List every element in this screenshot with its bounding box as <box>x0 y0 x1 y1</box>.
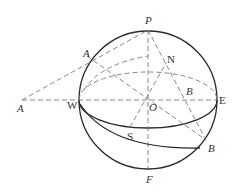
label-W: W <box>67 99 78 111</box>
label-P: P <box>144 14 152 26</box>
line-P-to-B-lower <box>148 30 206 140</box>
label-A-outside: A <box>16 102 24 114</box>
line-A-outside-to-P <box>22 30 148 100</box>
label-N: N <box>167 53 175 65</box>
label-A-sphere: A <box>82 47 90 59</box>
label-F: F <box>145 173 153 185</box>
label-E: E <box>219 94 226 106</box>
label-S: S <box>127 130 133 142</box>
lower-front-arc <box>80 104 200 148</box>
label-B-lower: B <box>208 142 215 154</box>
celestial-sphere-diagram: P A N B A W O E S B F <box>0 0 237 192</box>
label-B-upper: B <box>186 85 193 97</box>
label-O: O <box>149 101 157 113</box>
